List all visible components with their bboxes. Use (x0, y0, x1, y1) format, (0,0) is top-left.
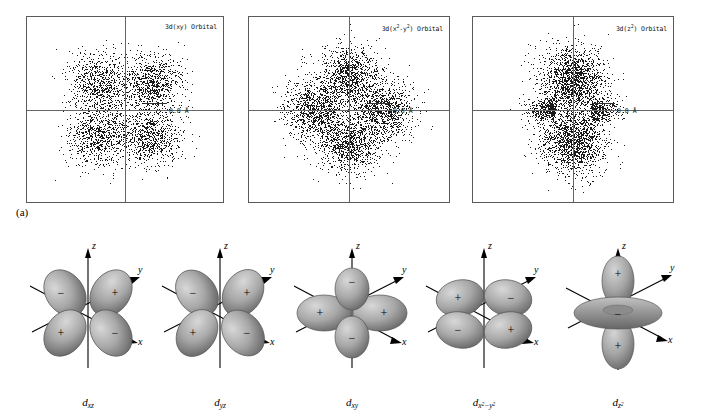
axis-label-x: x (138, 336, 142, 347)
dx2y2-drawing: + − − + (414, 236, 554, 386)
panel-b-orbital-shapes: − + + − z y x dxz (0, 236, 707, 414)
axis-label-y: y (402, 264, 406, 275)
axis-label-y: y (270, 264, 274, 275)
axis-tick (642, 110, 647, 111)
orbital-shape-dyz: − + + − z y x dyz (150, 236, 290, 414)
axis-tick (499, 110, 504, 111)
scale-bar (145, 103, 167, 104)
svg-text:+: + (112, 286, 119, 300)
dxz-drawing: − + + − (18, 236, 158, 386)
orbital-shape-dxz: − + + − z y x dxz (18, 236, 158, 414)
orbital-name-dyz: dyz (150, 396, 290, 410)
axis-label-z: z (224, 240, 228, 251)
figure-d-orbitals: 3d(xy) Orbital 0.8 Å 3d(x2-y2) Orbital 0… (0, 0, 707, 414)
orbital-subscript: xz (88, 401, 94, 410)
orbital-subscript-exp: 2 (493, 401, 496, 407)
dyz-drawing: − + + − (150, 236, 290, 386)
density-plot-3d-z2: 3d(z2) Orbital 0.8 Å (472, 16, 674, 203)
orbital-title-3d-xy: 3d(xy) Orbital (165, 23, 217, 31)
panel-a-density-plots: 3d(xy) Orbital 0.8 Å 3d(x2-y2) Orbital 0… (0, 0, 707, 228)
axis-label-y: y (534, 264, 538, 275)
svg-text:+: + (508, 323, 515, 337)
axis-tick (192, 110, 197, 111)
axis-tick (125, 171, 126, 176)
title-suffix: ) Orbital (410, 25, 443, 33)
svg-text:−: − (349, 331, 356, 345)
svg-text:+: + (58, 326, 65, 340)
axis-label-y: y (138, 264, 142, 275)
svg-text:+: + (244, 286, 251, 300)
scale-bar (369, 103, 391, 104)
scale-label-3d-z2: 0.8 Å (617, 107, 637, 115)
scale-label-3d-x2-y2: 0.8 Å (393, 107, 413, 115)
orbital-subscript: yz (220, 401, 226, 410)
title-suffix: ) Orbital (634, 25, 667, 33)
svg-text:+: + (455, 291, 462, 305)
axis-label-z: z (356, 240, 360, 251)
orbital-shape-dx2-y2: + − − + z y x dx2−y2 (414, 236, 554, 414)
axis-tick (349, 171, 350, 176)
dxy-drawing: + + − − (282, 236, 422, 386)
axis-tick (573, 171, 574, 176)
orbital-name-dxy: dxy (282, 396, 422, 410)
density-plot-3d-xy: 3d(xy) Orbital 0.8 Å (26, 16, 224, 203)
axis-label-z: z (92, 240, 96, 251)
axis-tick (573, 43, 574, 48)
axis-label-z: z (622, 240, 626, 251)
axis-label-z: z (488, 240, 492, 251)
title-prefix: 3d(z (616, 25, 631, 33)
scale-label-3d-xy: 0.8 Å (169, 107, 189, 115)
panel-label-a: (a) (16, 206, 28, 218)
axis-label-x: x (534, 336, 538, 347)
scale-bar (593, 103, 615, 104)
axis-label-y: y (670, 262, 674, 273)
dz2-drawing: + − + (548, 236, 688, 386)
title-prefix: 3d(x (382, 25, 397, 33)
svg-text:−: − (112, 326, 119, 340)
axis-tick (349, 43, 350, 48)
orbital-shape-dz2: + − + z y x dz2 (548, 236, 688, 414)
orbital-subscript: xy (351, 401, 358, 410)
svg-text:−: − (58, 286, 65, 300)
svg-text:+: + (381, 306, 388, 320)
orbital-subscript-exp: 2 (621, 401, 624, 407)
svg-text:−: − (349, 275, 356, 289)
orbital-title-3d-z2: 3d(z2) Orbital (616, 23, 667, 33)
axis-tick (275, 110, 280, 111)
axis-tick (418, 110, 423, 111)
orbital-shape-dxy: + + − − z y x dxy (282, 236, 422, 414)
axis-label-x: x (668, 334, 672, 345)
svg-text:+: + (615, 339, 622, 353)
svg-text:+: + (317, 306, 324, 320)
axis-label-x: x (402, 336, 406, 347)
svg-text:−: − (508, 291, 515, 305)
svg-text:−: − (455, 323, 462, 337)
svg-text:−: − (244, 326, 251, 340)
svg-text:−: − (190, 286, 197, 300)
orbital-name-dz2: dz2 (548, 396, 688, 410)
axis-label-x: x (270, 336, 274, 347)
svg-text:+: + (190, 326, 197, 340)
orbital-name-dxz: dxz (18, 396, 158, 410)
orbital-subscript-mid: −y (484, 401, 492, 410)
orbital-title-3d-x2-y2: 3d(x2-y2) Orbital (382, 23, 443, 33)
svg-text:−: − (615, 307, 622, 321)
orbital-name-dx2-y2: dx2−y2 (414, 396, 554, 410)
svg-text:+: + (615, 267, 622, 281)
density-plot-3d-x2-y2: 3d(x2-y2) Orbital 0.8 Å (248, 16, 450, 203)
axis-tick (125, 43, 126, 48)
title-middle: -y (399, 25, 406, 33)
axis-tick (53, 110, 58, 111)
